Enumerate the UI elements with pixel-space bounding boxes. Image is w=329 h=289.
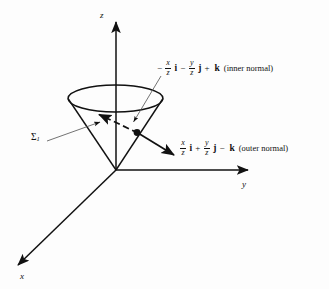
- outer-normal-label: x z i + y z j − k (outer normal): [179, 138, 288, 158]
- surface-point-dot: [134, 129, 141, 136]
- inner-normal-term2-fraction: y z: [189, 59, 195, 78]
- outer-normal-term2-fraction: y z: [204, 139, 210, 158]
- outer-normal-vector: [138, 133, 174, 155]
- axis-label-x: x: [20, 272, 24, 281]
- inner-normal-label: − x z i − y z j + k (inner normal): [157, 59, 273, 78]
- axis-label-z: z: [100, 11, 104, 20]
- outer-normal-term2-denominator: z: [204, 149, 209, 157]
- outer-normal-operator-2: −: [217, 144, 227, 153]
- outer-normal-operator-1: +: [193, 144, 203, 153]
- inner-normal-term2-numerator: y: [189, 59, 195, 67]
- inner-normal-term1-denominator: z: [166, 69, 171, 77]
- outer-normal-term3-unit-k: k: [227, 144, 235, 154]
- inner-normal-leader: [134, 76, 162, 122]
- inner-normal-lead-sign: −: [157, 64, 164, 73]
- inner-normal-operator-1: −: [178, 64, 188, 73]
- surface-label-leader-arrow: [47, 122, 100, 141]
- outer-normal-expression: x z i + y z j − k (outer normal): [179, 139, 288, 158]
- outer-normal-term1-numerator: x: [180, 139, 186, 147]
- outer-normal-term2-numerator: y: [204, 139, 210, 147]
- cone-left-edge: [68, 99, 116, 171]
- axis-x-arrow: [18, 170, 116, 265]
- surface-label-leader: [47, 122, 100, 141]
- surface-label: Σ1: [31, 133, 40, 143]
- inner-normal-leader-arrow: [134, 76, 162, 122]
- outer-normal-arrow: [138, 133, 174, 155]
- axis-label-y: y: [242, 180, 246, 189]
- axis-x: [18, 170, 116, 265]
- outer-normal-term1-denominator: z: [180, 149, 185, 157]
- inner-normal-term1-fraction: x z: [165, 59, 171, 78]
- inner-normal-arrow: [99, 115, 138, 134]
- inner-normal-operator-2: +: [202, 64, 212, 73]
- outer-normal-annotation: (outer normal): [235, 144, 288, 153]
- inner-normal-term1-numerator: x: [165, 59, 171, 67]
- inner-normal-expression: − x z i − y z j + k (inner normal): [157, 59, 273, 78]
- inner-normal-term2-denominator: z: [189, 69, 194, 77]
- surface-label-subscript: 1: [37, 135, 40, 142]
- figure-canvas: z y x Σ1 − x z i − y z j + k (inner norm…: [0, 0, 329, 289]
- outer-normal-term1-fraction: x z: [180, 139, 186, 158]
- inner-normal-vector: [99, 115, 138, 134]
- inner-normal-annotation: (inner normal): [220, 64, 273, 73]
- inner-normal-term3-unit-k: k: [212, 64, 220, 74]
